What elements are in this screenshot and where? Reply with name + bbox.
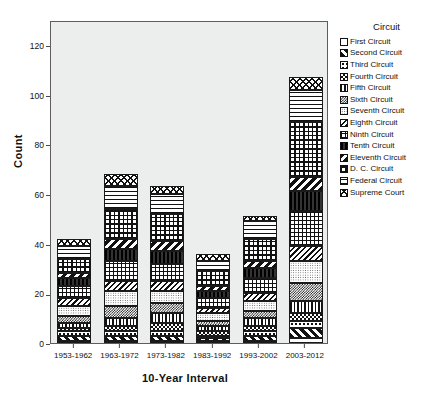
bar-segment[interactable] — [57, 286, 91, 298]
bar-segment[interactable] — [150, 323, 184, 330]
bar-segment[interactable] — [57, 316, 91, 323]
legend-item[interactable]: Fourth Circuit — [340, 71, 433, 83]
bar-segment[interactable] — [243, 268, 277, 278]
y-tick-40: 40 — [35, 240, 50, 250]
legend-swatch-icon — [340, 189, 348, 197]
bar-segment[interactable] — [150, 341, 184, 343]
stacked-bar[interactable] — [196, 254, 230, 343]
legend-item[interactable]: Supreme Court — [340, 187, 433, 199]
bar-segment[interactable] — [57, 341, 91, 343]
bar-segment[interactable] — [104, 306, 138, 318]
legend-item[interactable]: Third Circuit — [340, 59, 433, 71]
bar-segment[interactable] — [57, 259, 91, 274]
legend: Circuit First CircuitSecond CircuitThird… — [340, 21, 433, 198]
bar-segment[interactable] — [289, 122, 323, 177]
bar-segment[interactable] — [150, 291, 184, 303]
bar-segment[interactable] — [104, 261, 138, 281]
legend-swatch-icon — [340, 165, 348, 173]
stacked-bar[interactable] — [243, 216, 277, 343]
bar-segment[interactable] — [150, 264, 184, 281]
bar-segment[interactable] — [243, 341, 277, 343]
bar-segment[interactable] — [243, 278, 277, 293]
bar-segment[interactable] — [243, 239, 277, 261]
bar-segment[interactable] — [196, 313, 230, 320]
bar-segment[interactable] — [243, 221, 277, 238]
bar-segment[interactable] — [289, 283, 323, 300]
bar-segment[interactable] — [243, 311, 277, 318]
legend-item[interactable]: Eighth Circuit — [340, 117, 433, 129]
bar-segment[interactable] — [57, 278, 91, 285]
bar-segment[interactable] — [289, 261, 323, 283]
bar-segment[interactable] — [150, 303, 184, 313]
bar-segment[interactable] — [150, 251, 184, 263]
stacked-bar[interactable] — [57, 239, 91, 343]
bar-segment[interactable] — [289, 211, 323, 246]
bar-segment[interactable] — [289, 338, 323, 343]
y-tick-label: 60 — [35, 190, 44, 200]
bar-segment[interactable] — [289, 90, 323, 122]
y-tick-label: 0 — [39, 339, 44, 349]
x-tick-label: 1993-2002 — [239, 351, 277, 360]
bar-segment[interactable] — [150, 186, 184, 193]
legend-item[interactable]: Fifth Circuit — [340, 82, 433, 94]
bar-segment[interactable] — [289, 328, 323, 338]
bar-segment[interactable] — [104, 318, 138, 325]
stacked-bar[interactable] — [150, 186, 184, 343]
bar-segment[interactable] — [150, 194, 184, 214]
legend-item-label: Second Circuit — [350, 49, 402, 57]
bar-segment[interactable] — [243, 318, 277, 325]
stacked-bar[interactable] — [104, 174, 138, 343]
bar-segment[interactable] — [57, 306, 91, 316]
bar-segment[interactable] — [243, 293, 277, 300]
legend-item-label: Eleventh Circuit — [350, 154, 406, 162]
bar-segment[interactable] — [57, 298, 91, 305]
legend-item[interactable]: Second Circuit — [340, 48, 433, 60]
legend-item[interactable]: Tenth Circuit — [340, 140, 433, 152]
bar-segment[interactable] — [289, 177, 323, 192]
bar-segment[interactable] — [104, 174, 138, 186]
bar-segment[interactable] — [289, 321, 323, 328]
bar-segment[interactable] — [289, 77, 323, 89]
legend-item[interactable]: Ninth Circuit — [340, 129, 433, 141]
bar-segment[interactable] — [196, 254, 230, 261]
legend-swatch-icon — [340, 154, 348, 162]
legend-item-label: Fourth Circuit — [350, 73, 398, 81]
legend-swatch-icon — [340, 96, 348, 104]
bar-segment[interactable] — [289, 246, 323, 261]
bar-segment[interactable] — [104, 291, 138, 306]
bar-segment[interactable] — [150, 214, 184, 241]
bar-segment[interactable] — [150, 281, 184, 291]
bar-segment[interactable] — [243, 261, 277, 268]
bar-segment[interactable] — [196, 261, 230, 271]
legend-item[interactable]: First Circuit — [340, 36, 433, 48]
bar-segment[interactable] — [150, 241, 184, 251]
bar-segment[interactable] — [104, 341, 138, 343]
legend-item[interactable]: Federal Circuit — [340, 175, 433, 187]
legend-item[interactable]: Seventh Circuit — [340, 106, 433, 118]
bar-segment[interactable] — [196, 291, 230, 298]
bar-segment[interactable] — [196, 298, 230, 308]
bar-segment[interactable] — [104, 281, 138, 291]
stacked-bar[interactable] — [289, 77, 323, 343]
bar-segment[interactable] — [104, 209, 138, 239]
bar-segment[interactable] — [104, 249, 138, 261]
bar-segment[interactable] — [196, 271, 230, 286]
legend-item-label: Eighth Circuit — [350, 119, 398, 127]
legend-item[interactable]: Sixth Circuit — [340, 94, 433, 106]
bar-segment[interactable] — [196, 341, 230, 343]
bar-segment[interactable] — [57, 239, 91, 246]
x-tick-1983-1992: 1983-1992 — [193, 344, 231, 360]
legend-item[interactable]: D. C. Circuit — [340, 164, 433, 176]
bar-segment[interactable] — [289, 313, 323, 320]
bar-segment[interactable] — [104, 186, 138, 208]
plot-panel — [50, 21, 328, 344]
bar-segment[interactable] — [57, 246, 91, 258]
legend-swatch-icon — [340, 142, 348, 150]
legend-item[interactable]: Eleventh Circuit — [340, 152, 433, 164]
bar-segment[interactable] — [289, 191, 323, 211]
bar-segment[interactable] — [104, 239, 138, 249]
bar-segment[interactable] — [243, 301, 277, 311]
bar-segment[interactable] — [289, 301, 323, 313]
bar-segment[interactable] — [150, 313, 184, 323]
legend-item-label: First Circuit — [350, 38, 390, 46]
